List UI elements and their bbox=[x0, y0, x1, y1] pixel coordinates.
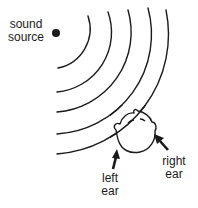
wavefront-arc-2 bbox=[57, 12, 112, 92]
wavefront-arc-1 bbox=[58, 16, 90, 68]
wavefront-arc-3 bbox=[57, 10, 131, 112]
right-ear-arrow bbox=[154, 134, 168, 150]
sound-source-label-line2: source bbox=[6, 31, 46, 44]
sound-source-dot bbox=[52, 29, 60, 37]
left-ear-arrow bbox=[112, 149, 120, 169]
right-ear-label-line2: ear bbox=[158, 168, 190, 181]
right-ear-label: right ear bbox=[158, 155, 190, 181]
left-ear-label: left ear bbox=[99, 172, 121, 198]
sound-source-label: sound source bbox=[6, 18, 46, 44]
left-ear-label-line2: ear bbox=[99, 185, 121, 198]
